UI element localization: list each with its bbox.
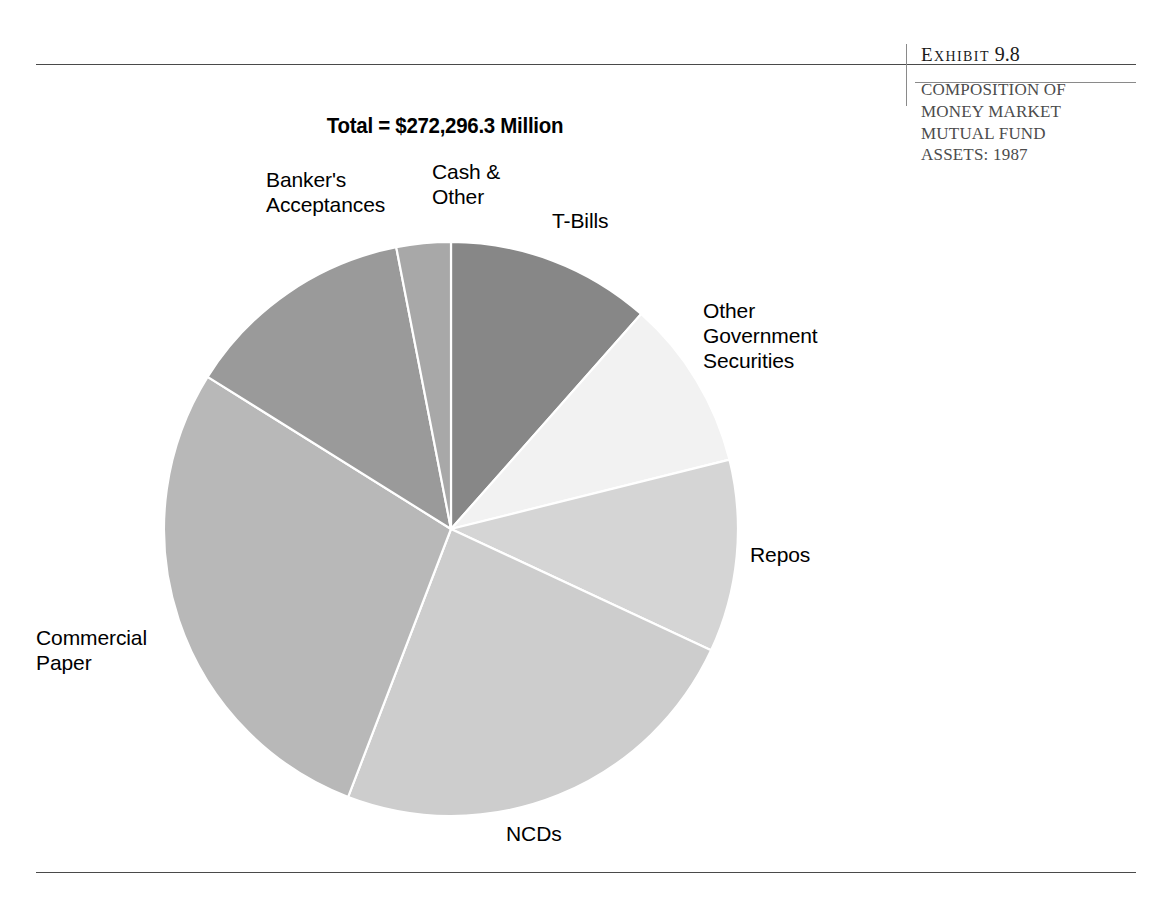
slice-label-bankers-acceptances: Banker's Acceptances xyxy=(266,168,385,218)
pie-chart-svg: T-BillsOther Government SecuritiesReposN… xyxy=(0,0,1171,907)
slice-label-other-government-securities: Other Government Securities xyxy=(703,299,818,373)
pie-slice-group: T-BillsOther Government SecuritiesReposN… xyxy=(164,242,738,816)
slice-label-commercial-paper: Commercial Paper xyxy=(36,626,147,676)
slice-label-t-bills: T-Bills xyxy=(552,209,608,234)
slice-label-ncds: NCDs xyxy=(506,822,562,847)
slice-label-repos: Repos xyxy=(750,543,810,568)
pie-chart: T-BillsOther Government SecuritiesReposN… xyxy=(0,0,1171,907)
slice-label-cash-and-other: Cash & Other xyxy=(432,160,500,210)
